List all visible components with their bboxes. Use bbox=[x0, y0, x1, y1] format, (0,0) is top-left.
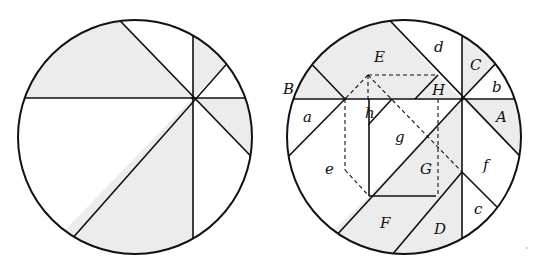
label-E: E bbox=[373, 48, 385, 66]
label-C: C bbox=[470, 56, 482, 74]
left-circle bbox=[0, 0, 270, 275]
label-B: B bbox=[282, 80, 294, 98]
label-d: d bbox=[434, 38, 444, 56]
label-G: G bbox=[420, 160, 432, 178]
label-e: e bbox=[325, 160, 334, 178]
label-b: b bbox=[492, 78, 502, 96]
label-A: A bbox=[494, 108, 507, 126]
label-c: c bbox=[474, 200, 483, 218]
left-center-point bbox=[191, 96, 195, 100]
label-a: a bbox=[303, 108, 312, 126]
right-circle: E d C b B H A a h g e G f F D c bbox=[270, 0, 539, 275]
right-center-point bbox=[460, 97, 464, 101]
left-shaded-top-wedge bbox=[0, 0, 193, 98]
label-g: g bbox=[395, 128, 405, 146]
label-F: F bbox=[379, 214, 391, 232]
stray-mark bbox=[526, 247, 528, 249]
label-h: h bbox=[365, 104, 375, 122]
right-b-junction-point bbox=[344, 98, 347, 101]
label-H: H bbox=[431, 81, 446, 99]
left-shaded-upper-right-wedge bbox=[193, 0, 270, 98]
piece-E bbox=[270, 0, 438, 99]
label-f: f bbox=[482, 156, 491, 174]
label-D: D bbox=[433, 220, 446, 238]
dissection-figure: E d C b B H A a h g e G f F D c bbox=[0, 0, 539, 275]
